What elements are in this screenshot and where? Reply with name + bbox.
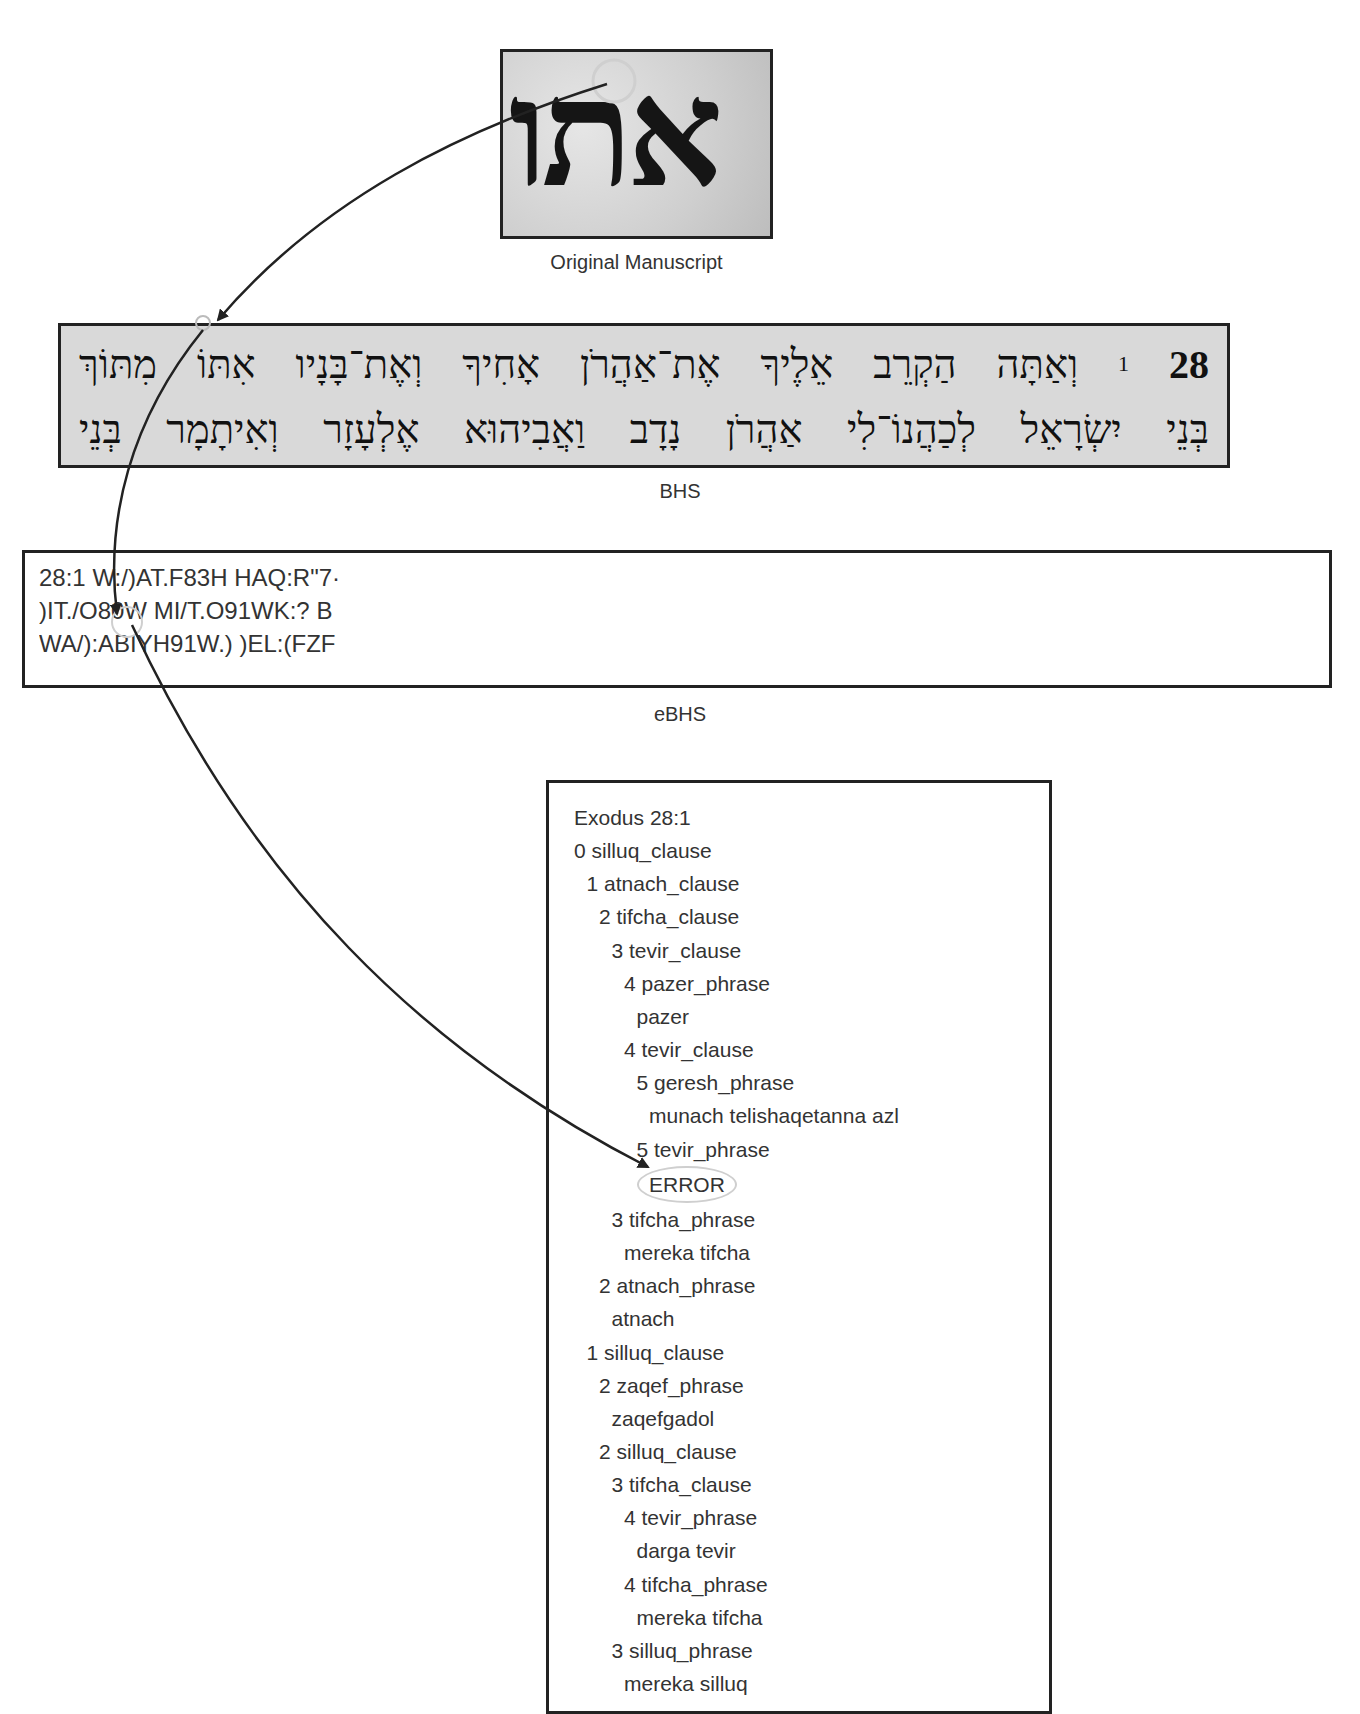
parse-tree-node-label: 1 silluq_clause [587, 1341, 725, 1364]
parse-tree-node: 2 tifcha_clause [574, 900, 1049, 933]
ebhs-panel: 28:1 W:/)AT.F83H HAQ:R"7· )IT./O80W MI/T… [22, 550, 1332, 688]
parse-tree-node: pazer [574, 1000, 1049, 1033]
parse-tree-node: 3 tifcha_clause [574, 1468, 1049, 1501]
bhs-line-1: 28 1 וְאַתָּה הַקְרֵב אֵלֶיךָ אֶת־אַהֲרֹ… [79, 332, 1209, 397]
parse-tree-node: darga tevir [574, 1534, 1049, 1567]
parse-tree-node: 4 tevir_phrase [574, 1501, 1049, 1534]
parse-tree-node-label: 2 tifcha_clause [599, 905, 739, 928]
parse-tree-lines: 0 silluq_clause1 atnach_clause2 tifcha_c… [574, 834, 1049, 1700]
parse-tree-node: 5 tevir_phrase [574, 1133, 1049, 1166]
parse-tree-node-label: 4 tevir_clause [624, 1038, 754, 1061]
parse-tree-node: 1 atnach_clause [574, 867, 1049, 900]
ebhs-line: WA/):ABIYH91W.) )EL:(FZF [39, 627, 409, 660]
parse-tree-node: 0 silluq_clause [574, 834, 1049, 867]
parse-tree-node: 5 geresh_phrase [574, 1066, 1049, 1099]
bhs-text-line-1: וְאַתָּה הַקְרֵב אֵלֶיךָ אֶת־אַהֲרֹן אָח… [79, 341, 1078, 387]
ebhs-line: )IT./O80W MI/T.O91WK:? B [39, 594, 409, 627]
bhs-text-line-2: בְּנֵי יִשְׂרָאֵל לְכַהֲנוֹ־לִי אַהֲרֹן … [79, 406, 1209, 452]
bhs-caption: BHS [560, 480, 800, 503]
parse-tree-node: mereka silluq [574, 1667, 1049, 1700]
parse-tree-node: zaqefgadol [574, 1402, 1049, 1435]
parse-tree-node: 2 zaqef_phrase [574, 1369, 1049, 1402]
manuscript-caption: Original Manuscript [500, 251, 773, 274]
parse-tree-node: mereka tifcha [574, 1601, 1049, 1634]
manuscript-image: אתו [500, 49, 773, 239]
parse-tree-node: 2 silluq_clause [574, 1435, 1049, 1468]
parse-tree-node-label: 2 silluq_clause [599, 1440, 737, 1463]
parse-tree-node: 3 silluq_phrase [574, 1634, 1049, 1667]
parse-tree-node-label: 3 tifcha_clause [612, 1473, 752, 1496]
parse-tree-node: atnach [574, 1302, 1049, 1335]
parse-tree-node-label: mereka tifcha [637, 1606, 763, 1629]
bhs-panel: 28 1 וְאַתָּה הַקְרֵב אֵלֶיךָ אֶת־אַהֲרֹ… [58, 323, 1230, 468]
parse-tree-node-label: 3 silluq_phrase [612, 1639, 753, 1662]
parse-tree-node-label: 2 atnach_phrase [599, 1274, 755, 1297]
parse-tree-node-label: munach telishaqetanna azl [649, 1104, 899, 1127]
parse-tree-node-label: 4 tevir_phrase [624, 1506, 757, 1529]
parse-tree-error-node: ERROR [574, 1166, 1049, 1203]
parse-tree-node: 4 tevir_clause [574, 1033, 1049, 1066]
parse-tree-node-label: 5 geresh_phrase [637, 1071, 795, 1094]
ebhs-line: 28:1 W:/)AT.F83H HAQ:R"7· [39, 561, 409, 594]
parse-tree-node-label: zaqefgadol [612, 1407, 715, 1430]
parse-tree-node-label: 3 tevir_clause [612, 939, 742, 962]
parse-tree-node-label: 2 zaqef_phrase [599, 1374, 744, 1397]
parse-tree-node-label: 4 tifcha_phrase [624, 1573, 768, 1596]
parse-tree-node: munach telishaqetanna azl [574, 1099, 1049, 1132]
manuscript-glyph: אתו [509, 49, 717, 220]
bhs-verse-number: 1 [1118, 351, 1129, 376]
parse-tree-node-label: darga tevir [637, 1539, 736, 1562]
parse-tree-node-label: 5 tevir_phrase [637, 1138, 770, 1161]
parse-tree-node: 3 tevir_clause [574, 934, 1049, 967]
parse-tree-node-label: mereka silluq [624, 1672, 748, 1695]
bhs-line-2: בְּנֵי יִשְׂרָאֵל לְכַהֲנוֹ־לִי אַהֲרֹן … [79, 397, 1209, 461]
parse-tree-node-label: 4 pazer_phrase [624, 972, 770, 995]
parse-tree-node: mereka tifcha [574, 1236, 1049, 1269]
parse-tree-title: Exodus 28:1 [574, 801, 1049, 834]
ebhs-caption: eBHS [560, 703, 800, 726]
parse-tree-node: 4 tifcha_phrase [574, 1568, 1049, 1601]
parse-tree-node: 3 tifcha_phrase [574, 1203, 1049, 1236]
parse-tree-node-label: pazer [637, 1005, 690, 1028]
parse-tree-node-label: ERROR [637, 1166, 737, 1203]
parse-tree-node: 2 atnach_phrase [574, 1269, 1049, 1302]
parse-tree-node-label: mereka tifcha [624, 1241, 750, 1264]
parse-tree-node-label: 0 silluq_clause [574, 839, 712, 862]
parse-tree-node-label: 3 tifcha_phrase [612, 1208, 756, 1231]
bhs-chapter-number: 28 [1169, 342, 1209, 387]
parse-tree-node: 4 pazer_phrase [574, 967, 1049, 1000]
parse-tree-node-label: atnach [612, 1307, 675, 1330]
parse-tree-panel: Exodus 28:1 0 silluq_clause1 atnach_clau… [546, 780, 1052, 1714]
parse-tree-node: 1 silluq_clause [574, 1336, 1049, 1369]
parse-tree-node-label: 1 atnach_clause [587, 872, 740, 895]
